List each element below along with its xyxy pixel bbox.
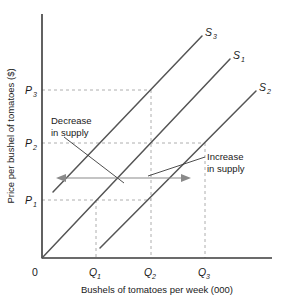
y-axis-title: Price per bushel of tomatoes ($) [5,68,16,203]
increase-annotation-line2: in supply [207,163,245,174]
annotation-increase: Increase in supply [207,151,245,174]
y-tick-p2-base: P [25,137,32,149]
decrease-annotation-line1: Decrease [51,115,92,126]
x-tick-q2-sub: 2 [151,273,156,280]
annotation-decrease: Decrease in supply [51,115,92,138]
y-tick-p2: P 2 [25,137,37,151]
x-tick-q2-base: Q [144,266,152,278]
y-tick-labels: P 3 P 2 P 1 [25,84,37,208]
curve-label-s3-sub: 3 [213,33,217,40]
supply-curves-group [42,36,256,258]
x-tick-q1-base: Q [89,266,97,278]
shift-arrow-group [56,174,191,182]
origin-label: 0 [32,266,38,278]
y-tick-p1-base: P [25,194,32,206]
y-tick-p1: P 1 [25,194,37,208]
x-tick-q1: Q 1 [89,266,101,280]
curve-label-s2-base: S [259,81,266,93]
curve-labels: S 3 S 1 S 2 [205,26,271,95]
x-tick-labels: 0 Q 1 Q 2 Q 3 [32,266,210,280]
x-tick-q2: Q 2 [144,266,156,280]
y-tick-p2-sub: 2 [32,144,37,151]
supply-shift-figure: P 3 P 2 P 1 0 Q 1 Q 2 Q [0,0,281,300]
curve-label-s3: S 3 [205,26,217,40]
curve-label-s1-base: S [233,49,240,61]
curve-label-s2-sub: 2 [266,88,271,95]
x-tick-q3-base: Q [198,266,206,278]
x-axis-title: Bushels of tomatoes per week (000) [81,284,233,295]
curve-label-s2: S 2 [259,81,271,95]
shift-arrow-left-head [56,174,66,182]
curve-label-s1: S 1 [233,49,245,63]
y-tick-p3-sub: 3 [33,91,37,98]
shift-arrow-right-head [181,174,191,182]
decrease-annotation-line2: in supply [51,127,89,138]
increase-leader-line [148,157,205,176]
y-tick-p3: P 3 [25,84,37,98]
x-tick-q1-sub: 1 [97,273,101,280]
y-tick-p3-base: P [25,84,32,96]
x-tick-q3-sub: 3 [206,273,210,280]
curve-label-s3-base: S [205,26,212,38]
y-tick-p1-sub: 1 [33,201,37,208]
increase-annotation-line1: Increase [207,151,243,162]
curve-label-s1-sub: 1 [241,56,245,63]
x-tick-q3: Q 3 [198,266,210,280]
chart-canvas: P 3 P 2 P 1 0 Q 1 Q 2 Q [0,0,281,300]
decrease-leader-line [64,137,124,183]
